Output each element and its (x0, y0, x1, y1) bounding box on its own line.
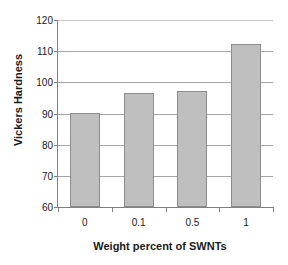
y-tick-mark (54, 51, 58, 52)
y-tick-label: 60 (13, 202, 53, 213)
y-tick-label: 90 (13, 108, 53, 119)
bar (70, 113, 100, 207)
y-tick-mark (54, 176, 58, 177)
bar-chart-figure: Vickers Hardness 6070809010011012000.10.… (0, 0, 288, 265)
y-tick-mark (54, 114, 58, 115)
bar (231, 44, 261, 207)
y-axis-title: Vickers Hardness (12, 20, 24, 180)
x-axis-title: Weight percent of SWNTs (40, 240, 280, 252)
x-tick-mark (58, 207, 59, 212)
x-tick-mark (166, 207, 167, 212)
x-tick-mark (112, 207, 113, 212)
y-tick-label: 80 (13, 139, 53, 150)
x-tick-mark (219, 207, 220, 212)
bar (177, 91, 207, 207)
gridline (58, 20, 273, 21)
x-tick-label: 0 (82, 217, 88, 228)
x-tick-mark (273, 207, 274, 212)
x-tick-label: 1 (243, 217, 249, 228)
x-tick-label: 0.5 (185, 217, 199, 228)
y-tick-mark (54, 145, 58, 146)
plot-area: 6070809010011012000.10.51 (57, 20, 273, 208)
y-tick-label: 120 (13, 15, 53, 26)
x-tick-label: 0.1 (132, 217, 146, 228)
y-tick-mark (54, 82, 58, 83)
bar (124, 93, 154, 207)
y-tick-label: 110 (13, 46, 53, 57)
y-tick-label: 70 (13, 170, 53, 181)
y-tick-mark (54, 20, 58, 21)
y-tick-label: 100 (13, 77, 53, 88)
